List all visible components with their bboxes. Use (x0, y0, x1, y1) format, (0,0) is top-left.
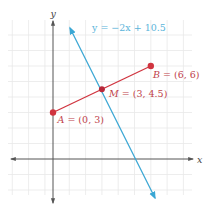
line-equation-label: y = −2x + 10.5 (91, 22, 166, 33)
point-b-label: B = (6, 6) (152, 69, 200, 80)
point-a-label: A = (0, 3) (57, 114, 104, 125)
x-axis-label: x (197, 154, 203, 165)
point-m-label: M = (3, 4.5) (108, 88, 167, 99)
perpendicular-bisector-line (70, 28, 155, 198)
point-a-marker (50, 109, 56, 115)
coordinate-plane: x y y = −2x + 10.5 A = (0, 3) M = (3, 4.… (0, 0, 214, 213)
point-m-marker (99, 86, 105, 92)
grid (8, 20, 192, 195)
y-axis-label: y (50, 8, 57, 19)
